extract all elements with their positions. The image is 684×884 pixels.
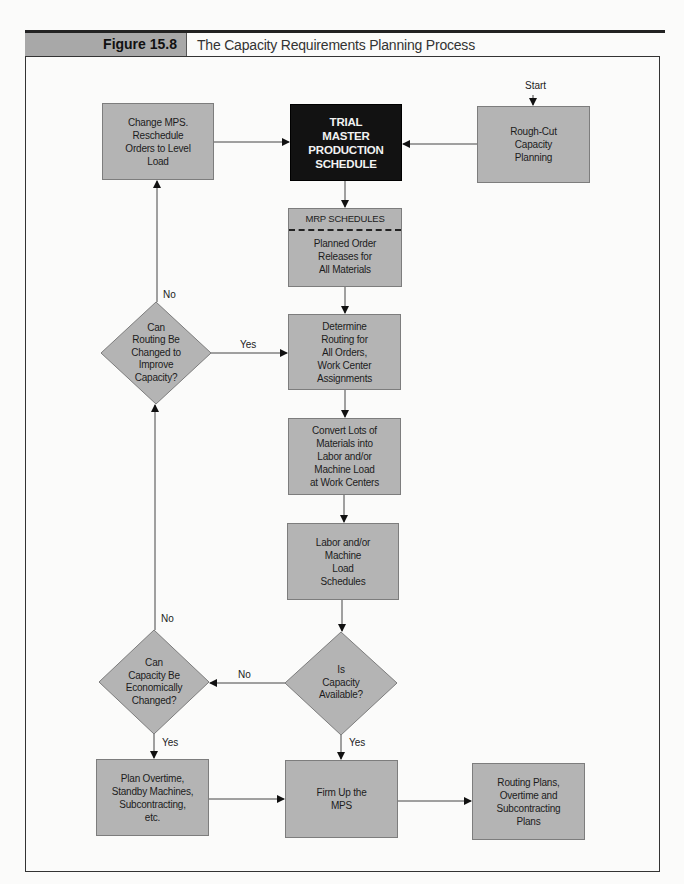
node-labor-load: Labor and/or Machine Load Schedules: [287, 523, 399, 600]
node-firm-up-mps: Firm Up the MPS: [285, 760, 398, 838]
label-econ-yes: Yes: [162, 737, 178, 748]
mrp-body: Planned Order Releases for All Materials: [314, 231, 376, 286]
decision-available-text: Is Capacity Available?: [296, 645, 386, 721]
node-change-mps: Change MPS. Reschedule Orders to Level L…: [102, 103, 214, 180]
mrp-header: MRP SCHEDULES: [289, 209, 401, 229]
decision-routing-text: Can Routing Be Changed to Improve Capaci…: [111, 312, 201, 394]
node-trial-mps: TRIAL MASTER PRODUCTION SCHEDULE: [290, 104, 402, 181]
label-routing-no: No: [163, 289, 176, 300]
decision-econ-text: Can Capacity Be Economically Changed?: [109, 642, 199, 722]
label-econ-no: No: [161, 613, 174, 624]
start-label: Start: [525, 80, 546, 91]
node-mrp-schedules: MRP SCHEDULES Planned Order Releases for…: [288, 208, 402, 287]
label-available-yes: Yes: [349, 737, 365, 748]
label-routing-yes: Yes: [240, 339, 256, 350]
node-determine-routing: Determine Routing for All Orders, Work C…: [288, 314, 401, 390]
node-rough-cut: Rough-Cut Capacity Planning: [477, 106, 590, 183]
label-available-no: No: [238, 669, 251, 680]
node-plan-overtime: Plan Overtime, Standby Machines, Subcont…: [96, 759, 209, 836]
node-routing-plans: Routing Plans, Overtime and Subcontracti…: [472, 763, 585, 840]
node-convert-lots: Convert Lots of Materials into Labor and…: [288, 418, 401, 495]
